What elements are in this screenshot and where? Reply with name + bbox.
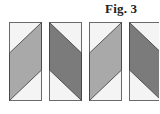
panel-2: [50, 23, 82, 101]
panel-1: [10, 23, 42, 101]
panel-4: [130, 23, 160, 101]
panel-3: [90, 23, 122, 101]
quilt-block-diagram: [0, 0, 159, 114]
